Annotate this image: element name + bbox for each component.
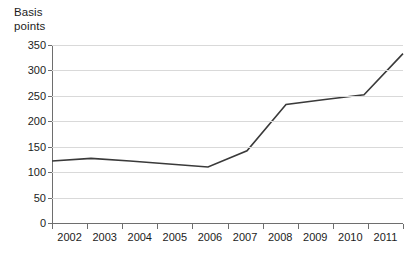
gridline (52, 147, 403, 148)
x-tick-mark (52, 224, 53, 229)
gridline (52, 121, 403, 122)
x-tick-mark (228, 224, 229, 229)
y-tick-label: 50 (34, 192, 46, 204)
y-tick-label: 350 (28, 39, 46, 51)
line-chart: Basis points 050100150200250300350 20022… (0, 0, 413, 255)
y-tick-label: 100 (28, 166, 46, 178)
x-tick-mark (403, 224, 404, 229)
x-tick-label: 2010 (338, 231, 362, 243)
x-tick-mark (192, 224, 193, 229)
x-tick-label: 2008 (268, 231, 292, 243)
y-tick-label: 150 (28, 141, 46, 153)
plot-area (52, 45, 403, 223)
x-tick-mark (263, 224, 264, 229)
gridline (52, 172, 403, 173)
y-tick-label: 200 (28, 115, 46, 127)
x-tick-label: 2009 (303, 231, 327, 243)
x-tick-label: 2002 (57, 231, 81, 243)
y-tick-mark (48, 96, 52, 97)
y-axis-tick-labels: 050100150200250300350 (0, 0, 46, 255)
series-line-basis-points (52, 45, 403, 223)
x-tick-mark (333, 224, 334, 229)
y-tick-mark (48, 147, 52, 148)
y-tick-label: 0 (40, 217, 46, 229)
y-tick-mark (48, 172, 52, 173)
x-tick-label: 2011 (374, 231, 398, 243)
y-tick-label: 250 (28, 90, 46, 102)
x-tick-label: 2005 (163, 231, 187, 243)
x-tick-mark (87, 224, 88, 229)
gridline (52, 198, 403, 199)
y-tick-mark (48, 45, 52, 46)
x-tick-label: 2003 (92, 231, 116, 243)
gridline (52, 45, 403, 46)
x-tick-mark (157, 224, 158, 229)
gridline (52, 96, 403, 97)
x-tick-label: 2004 (128, 231, 152, 243)
x-tick-mark (298, 224, 299, 229)
gridline (52, 70, 403, 71)
y-tick-mark (48, 121, 52, 122)
x-tick-mark (368, 224, 369, 229)
y-tick-mark (48, 198, 52, 199)
x-tick-mark (122, 224, 123, 229)
y-tick-mark (48, 70, 52, 71)
x-tick-label: 2007 (233, 231, 257, 243)
y-tick-label: 300 (28, 64, 46, 76)
x-tick-label: 2006 (198, 231, 222, 243)
